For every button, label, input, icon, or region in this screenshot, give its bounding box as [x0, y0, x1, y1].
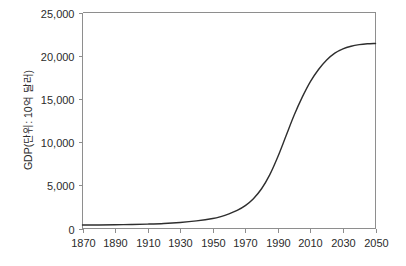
x-tick-label: 1970 [233, 237, 257, 249]
y-tick-label: 5,000 [47, 180, 75, 192]
y-axis-title: GDP(단위: 10억 달러) [22, 70, 34, 170]
y-tick-label: 15,000 [41, 94, 75, 106]
x-tick-label: 1950 [201, 237, 225, 249]
plot-frame [83, 13, 376, 229]
x-tick-label: 1930 [168, 237, 192, 249]
series-group [83, 43, 376, 225]
y-tick-label: 10,000 [41, 137, 75, 149]
y-tick-label: 20,000 [41, 51, 75, 63]
x-tick-label: 2030 [331, 237, 355, 249]
chart-canvas: 05,00010,00015,00020,00025,000 187018901… [0, 0, 406, 266]
y-tick-group [79, 14, 83, 230]
x-tick-label: 1870 [71, 237, 95, 249]
gdp-line-chart: 05,00010,00015,00020,00025,000 187018901… [0, 0, 406, 266]
y-tick-label-group: 05,00010,00015,00020,00025,000 [41, 8, 75, 236]
x-tick-label: 2010 [298, 237, 322, 249]
data-series-line [83, 43, 376, 225]
x-tick-group [84, 229, 377, 233]
y-tick-label: 25,000 [41, 8, 75, 20]
x-tick-label-group: 1870189019101930195019701990201020302050 [71, 237, 388, 249]
y-tick-label: 0 [68, 224, 74, 236]
x-tick-label: 1910 [136, 237, 160, 249]
x-tick-label: 1990 [266, 237, 290, 249]
x-tick-label: 2050 [364, 237, 388, 249]
x-tick-label: 1890 [103, 237, 127, 249]
